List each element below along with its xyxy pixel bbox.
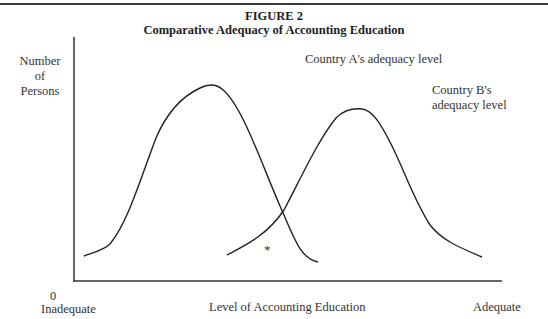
chart-plot bbox=[0, 0, 548, 319]
x-axis-left-label: Inadequate bbox=[41, 302, 96, 317]
y-label-line1: Number bbox=[14, 54, 66, 69]
x-axis-label: Level of Accounting Education bbox=[209, 300, 366, 315]
x-axis-right-label: Adequate bbox=[473, 300, 521, 315]
y-label-line2: of bbox=[14, 69, 66, 84]
country-a-annotation: Country A's adequacy level bbox=[305, 52, 442, 67]
country-b-annotation: Country B's adequacy level bbox=[432, 83, 507, 113]
y-label-line3: Persons bbox=[14, 84, 66, 99]
country-b-curve bbox=[227, 109, 482, 257]
country-b-line1: Country B's bbox=[432, 83, 507, 98]
country-a-curve bbox=[84, 85, 318, 262]
intersection-asterisk: * bbox=[264, 242, 271, 257]
country-b-line2: adequacy level bbox=[432, 98, 507, 113]
y-axis-label: Number of Persons bbox=[14, 54, 66, 99]
